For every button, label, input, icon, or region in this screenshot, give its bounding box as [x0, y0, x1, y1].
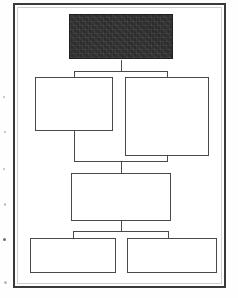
scanned-figure-page	[0, 0, 238, 298]
scan-artifact-speck	[3, 96, 5, 98]
connector-to-n6	[168, 231, 169, 238]
diagram-node-n6[interactable]	[127, 238, 217, 273]
diagram-node-n3-label	[126, 78, 208, 155]
connector-n4-drop	[121, 220, 122, 231]
scan-artifact-speck	[3, 238, 6, 241]
scan-artifact-speck	[4, 203, 6, 206]
connector-n4-stem	[121, 161, 122, 173]
connector-to-n5	[73, 231, 74, 238]
diagram-frame	[13, 3, 226, 288]
diagram-node-n3[interactable]	[125, 77, 209, 156]
diagram-node-n2-label	[36, 78, 112, 130]
connector-n2-drop	[74, 131, 75, 161]
diagram-node-n5-label	[31, 239, 115, 272]
diagram-node-n5[interactable]	[30, 238, 116, 273]
diagram-node-n6-label	[128, 239, 216, 272]
diagram-node-n1-label	[70, 15, 172, 58]
scan-artifact-speck	[3, 168, 5, 170]
connector-split-bus-top	[74, 71, 168, 72]
connector-n1-stem	[121, 60, 122, 71]
diagram-node-n2[interactable]	[35, 77, 113, 131]
diagram-node-n4-label	[72, 174, 170, 220]
diagram-node-n4[interactable]	[71, 173, 171, 221]
diagram-node-n1[interactable]	[69, 14, 173, 59]
connector-split-bus-bottom	[73, 231, 169, 232]
scan-artifact-speck	[4, 281, 7, 284]
scan-artifact-speck	[4, 131, 6, 133]
